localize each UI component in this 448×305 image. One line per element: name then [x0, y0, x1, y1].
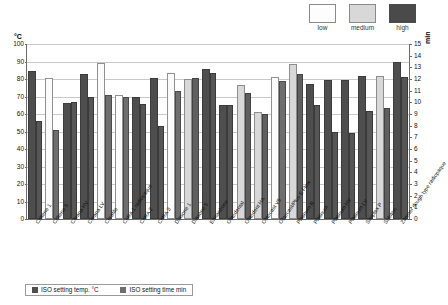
y-axis-right-tick: 5	[414, 157, 418, 164]
y-axis-left-tick: 90	[17, 58, 24, 65]
x-axis-label: Platinum LV	[339, 221, 356, 279]
bar-time	[88, 97, 94, 220]
viscosity-legend-item-medium: medium	[347, 4, 378, 32]
y-axis-right-tick-mark	[410, 114, 412, 115]
y-axis-right-tick-mark	[410, 172, 412, 173]
bar-time	[314, 105, 320, 219]
plot-area: 0102030405060708090100 01234567891011121…	[26, 44, 410, 220]
bar-group	[375, 44, 392, 219]
x-axis-label: Obtodent HA	[235, 221, 252, 279]
y-axis-left-tick-mark	[25, 219, 27, 220]
bar-group	[184, 44, 201, 219]
series-swatch-time	[120, 287, 126, 293]
bar-group	[44, 44, 61, 219]
series-legend-item-time: ISO setting time min	[120, 287, 186, 293]
y-axis-right-tick-mark	[410, 137, 412, 138]
x-axis-label: Subiton	[374, 221, 391, 279]
bar-time	[332, 132, 338, 220]
bar-time	[245, 93, 251, 219]
bar-temp	[115, 95, 123, 219]
bar-time	[36, 121, 42, 219]
y-axis-left-tick: 30	[17, 163, 24, 170]
y-axis-right-tick-mark	[410, 149, 412, 150]
bar-groups	[27, 44, 410, 219]
viscosity-swatch-medium	[349, 4, 376, 23]
x-axis-label: Cerana HV	[61, 221, 78, 279]
bar-time	[349, 133, 355, 219]
y-axis-right-tick-mark	[410, 56, 412, 57]
bar-temp	[324, 80, 332, 219]
bar-group	[358, 44, 375, 219]
bar-time	[210, 73, 216, 219]
y-axis-right-tick-mark	[410, 91, 412, 92]
y-axis-right-tick: 0	[414, 216, 418, 223]
x-axis-label: Platinum R	[287, 221, 304, 279]
x-axis-label: Cerana LV	[78, 221, 95, 279]
viscosity-legend-item-high: high	[387, 4, 418, 32]
bar-group	[218, 44, 235, 219]
y-axis-right-tick-mark	[410, 79, 412, 80]
bar-group	[62, 44, 79, 219]
bar-group	[236, 44, 253, 219]
bar-time	[53, 130, 59, 219]
bar-temp	[202, 69, 210, 220]
bar-time	[158, 126, 164, 219]
bar-temp	[393, 62, 401, 220]
y-axis-right-tick-mark	[410, 126, 412, 127]
bar-group	[166, 44, 183, 219]
bar-group	[97, 44, 114, 219]
y-axis-right-line	[409, 44, 410, 219]
y-axis-right-tick-mark	[410, 184, 412, 185]
x-axis-labels: Coltene 1Coltene 5Cerana HVCerana LVCera…	[26, 221, 409, 279]
bar-time	[123, 97, 129, 220]
y-axis-right-tick-mark	[410, 161, 412, 162]
y-axis-right-tick-mark	[410, 219, 412, 220]
series-legend: ISO setting temp. °C ISO setting time mi…	[25, 284, 193, 296]
bar-group	[149, 44, 166, 219]
viscosity-label-medium: medium	[351, 25, 374, 32]
y-axis-right-tick: 8	[414, 122, 418, 129]
bar-temp	[237, 85, 245, 219]
y-axis-left-tick: 20	[17, 181, 24, 188]
x-axis-label: Obtocast/Plus E Flow	[270, 221, 287, 279]
y-axis-left-tick: 40	[17, 146, 24, 153]
x-axis-label: Obtodental	[217, 221, 234, 279]
bar-group	[27, 44, 44, 219]
x-axis-label: Platinum HV	[322, 221, 339, 279]
y-axis-right-tick: 10	[414, 99, 421, 106]
x-axis-label: Cerafile	[96, 221, 113, 279]
y-axis-right-tick: 6	[414, 146, 418, 153]
y-axis-left-tick: 70	[17, 93, 24, 100]
x-axis-label: Obtocast V5	[252, 221, 269, 279]
y-axis-right-tick: 3	[414, 181, 418, 188]
series-legend-item-temp: ISO setting temp. °C	[32, 287, 98, 293]
y-axis-right-tick: 13	[414, 64, 421, 71]
bar-time	[401, 77, 407, 219]
bar-group	[201, 44, 218, 219]
bar-group	[340, 44, 357, 219]
viscosity-legend-item-low: low	[307, 4, 338, 32]
bar-temp	[45, 78, 53, 219]
series-label-temp: ISO setting temp. °C	[41, 287, 98, 293]
bar-temp	[80, 74, 88, 219]
y-axis-left-tick: 100	[13, 41, 24, 48]
viscosity-label-high: high	[396, 25, 408, 32]
viscosity-legend: low medium high	[307, 4, 418, 32]
bar-time	[71, 102, 77, 219]
y-axis-left-tick: 60	[17, 111, 24, 118]
y-axis-left-tick: 80	[17, 76, 24, 83]
bar-group	[114, 44, 131, 219]
viscosity-swatch-low	[309, 4, 336, 23]
bar-temp	[150, 78, 158, 219]
x-axis-label: CeRA 2	[130, 221, 147, 279]
x-axis-label: Zimmer dough type radiopaque	[392, 221, 409, 279]
bar-group	[253, 44, 270, 219]
viscosity-swatch-high	[389, 4, 416, 23]
bar-group	[271, 44, 288, 219]
y-axis-right-tick: 4	[414, 169, 418, 176]
x-axis-label: Diasone 5	[183, 221, 200, 279]
x-axis-label: Diasone 1	[165, 221, 182, 279]
bar-group	[79, 44, 96, 219]
y-axis-right-unit: min	[424, 32, 431, 44]
x-axis-label: Simplex P	[357, 221, 374, 279]
